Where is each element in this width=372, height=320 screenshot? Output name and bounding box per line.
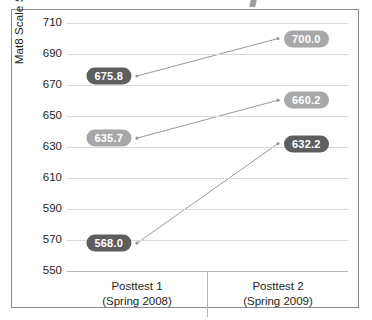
data-point-marker [276, 142, 279, 145]
data-value-badge: 675.8 [86, 68, 131, 85]
crop-artifact [249, 0, 256, 7]
y-axis-tick-label: 630 [16, 146, 62, 147]
series-line [137, 100, 278, 138]
gridline [67, 116, 348, 117]
x-axis-category-1-line2: (Spring 2009) [208, 294, 348, 309]
gridline [67, 85, 348, 86]
gridline [67, 54, 348, 55]
data-point-marker [276, 37, 279, 40]
data-value-badge: 635.7 [86, 130, 131, 147]
y-axis-tick-label: 550 [16, 270, 62, 271]
y-axis-tick-label: 710 [16, 22, 62, 23]
y-axis-tick-label: 570 [16, 239, 62, 240]
data-point-marker [135, 74, 138, 77]
data-value-badge: 660.2 [284, 92, 329, 109]
x-axis-category-0: Posttest 1 (Spring 2008) [67, 279, 207, 309]
gridline [67, 23, 348, 24]
y-axis-tick-label: 590 [16, 208, 62, 209]
data-value-badge: 700.0 [284, 30, 329, 47]
y-axis-title-text: Mat8 Scale Score [10, 0, 28, 88]
plot-area: 710690670650630610590570550675.8700.0635… [67, 23, 348, 271]
gridline [67, 209, 348, 210]
y-axis-tick-label: 670 [16, 84, 62, 85]
y-axis-title: Mat8 Scale Score [10, 0, 28, 88]
x-axis: Posttest 1 (Spring 2008) Posttest 2 (Spr… [67, 271, 348, 317]
x-axis-category-1-line1: Posttest 2 [208, 279, 348, 294]
x-axis-category-0-line2: (Spring 2008) [67, 294, 207, 309]
data-point-marker [135, 242, 138, 245]
y-axis-tick-label: 610 [16, 177, 62, 178]
chart-figure: Mat8 Scale Score 71069067065063061059057… [11, 9, 359, 308]
y-axis-tick-label: 690 [16, 53, 62, 54]
data-value-badge: 568.0 [86, 235, 131, 252]
y-axis-tick-label: 650 [16, 115, 62, 116]
data-value-badge: 632.2 [284, 135, 329, 152]
x-axis-category-0-line1: Posttest 1 [67, 279, 207, 294]
data-point-marker [276, 99, 279, 102]
series-line [137, 39, 278, 77]
gridline [67, 178, 348, 179]
data-point-marker [135, 137, 138, 140]
series-line [137, 144, 278, 244]
x-axis-category-1: Posttest 2 (Spring 2009) [208, 279, 348, 309]
